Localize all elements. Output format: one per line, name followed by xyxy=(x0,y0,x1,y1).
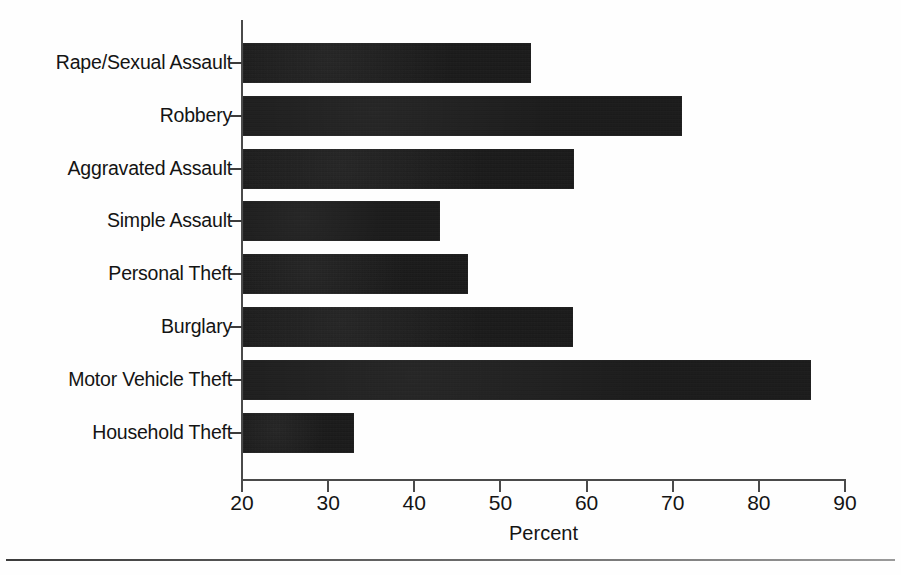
bar xyxy=(243,254,468,294)
x-axis-tick-label: 90 xyxy=(833,492,856,513)
y-axis-tick xyxy=(230,273,242,275)
category-label: Simple Assault xyxy=(107,211,232,231)
y-axis-tick xyxy=(230,220,242,222)
footer-divider xyxy=(6,559,895,561)
category-label: Rape/Sexual Assault xyxy=(56,53,232,73)
bar xyxy=(243,96,682,136)
x-axis-tick-label: 30 xyxy=(316,492,339,513)
x-axis-tick-label: 60 xyxy=(575,492,598,513)
category-label: Household Theft xyxy=(92,423,232,443)
bar xyxy=(243,360,811,400)
bar xyxy=(243,307,573,347)
x-axis-tick-label: 20 xyxy=(230,492,253,513)
x-axis-tick-label: 80 xyxy=(747,492,770,513)
y-axis-tick xyxy=(230,115,242,117)
y-axis-tick xyxy=(230,379,242,381)
bar xyxy=(243,413,354,453)
x-axis-tick-label: 40 xyxy=(403,492,426,513)
x-axis-tick-label: 50 xyxy=(489,492,512,513)
horizontal-bar-chart: Rape/Sexual AssaultRobberyAggravated Ass… xyxy=(0,0,901,575)
y-axis-tick xyxy=(230,432,242,434)
chart-page: Rape/Sexual AssaultRobberyAggravated Ass… xyxy=(0,0,901,575)
y-axis-tick xyxy=(230,168,242,170)
category-label: Motor Vehicle Theft xyxy=(68,370,232,390)
bar xyxy=(243,201,440,241)
category-label-column: Rape/Sexual AssaultRobberyAggravated Ass… xyxy=(0,0,232,480)
category-label: Personal Theft xyxy=(108,264,232,284)
category-label: Burglary xyxy=(161,317,232,337)
bar xyxy=(243,149,574,189)
x-axis-line xyxy=(241,479,846,481)
x-axis-title: Percent xyxy=(241,523,846,543)
category-label: Robbery xyxy=(160,106,232,126)
x-axis-tick-label: 70 xyxy=(661,492,684,513)
y-axis-tick xyxy=(230,62,242,64)
y-axis-tick xyxy=(230,326,242,328)
category-label: Aggravated Assault xyxy=(68,159,232,179)
bar xyxy=(243,43,531,83)
